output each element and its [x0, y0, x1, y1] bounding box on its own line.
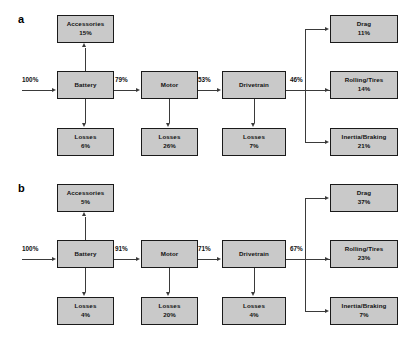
node-drivetrain-label: Drivetrain: [239, 250, 269, 259]
node-battery-losses-value: 6%: [81, 142, 90, 151]
arrowhead-drivetrain-to-losses: [251, 123, 255, 127]
node-accessories-label: Accessories: [67, 20, 105, 29]
node-drivetrain-losses-value: 4%: [249, 311, 258, 320]
panel-label-b: b: [18, 183, 25, 194]
connector-drivetrain-to-losses: [254, 268, 255, 292]
arrowhead-motor-to-losses: [166, 292, 170, 296]
node-battery-label: Battery: [74, 250, 96, 259]
node-motor-losses: Losses 20%: [141, 297, 198, 325]
node-motor-label: Motor: [161, 81, 179, 90]
arrowhead-drivetrain-to-losses: [251, 292, 255, 296]
connector-branch-to-drag: [305, 29, 326, 30]
connector-drivetrain-to-losses: [254, 99, 255, 123]
node-rolling-tires-label: Rolling/Tires: [345, 245, 384, 254]
connector-battery-to-motor: [114, 90, 136, 91]
node-rolling-tires-value: 23%: [358, 254, 371, 263]
flow-label-motor-to-drivetrain: 71%: [198, 246, 211, 252]
connector-branch-trunk: [305, 198, 306, 311]
connector-drivetrain-to-branch: [286, 259, 330, 260]
node-battery-losses-label: Losses: [75, 302, 97, 311]
connector-branch-trunk: [305, 29, 306, 142]
flow-label-battery-to-motor: 91%: [115, 246, 128, 252]
node-battery-losses: Losses 4%: [57, 297, 114, 325]
connector-battery-to-losses: [85, 268, 86, 292]
connector-motor-to-losses: [169, 99, 170, 123]
node-drag-label: Drag: [357, 189, 372, 198]
node-drivetrain: Drivetrain: [222, 240, 286, 268]
arrowhead-branch-to-drag: [325, 27, 329, 31]
arrowhead-branch-to-rolling: [325, 88, 329, 92]
node-accessories-value: 15%: [79, 29, 92, 38]
arrowhead-battery-to-motor: [136, 88, 140, 92]
node-motor-losses: Losses 26%: [141, 128, 198, 156]
node-drivetrain-label: Drivetrain: [239, 81, 269, 90]
node-motor: Motor: [141, 71, 198, 99]
node-battery-label: Battery: [74, 81, 96, 90]
node-drivetrain-losses-label: Losses: [243, 133, 265, 142]
arrowhead-motor-to-drivetrain: [217, 88, 221, 92]
flow-label-input: 100%: [22, 246, 38, 252]
flow-label-input: 100%: [22, 77, 38, 83]
flow-label-drivetrain-to-road: 46%: [290, 77, 303, 83]
panel-a: a Accessories 15% Battery Losses 6% Moto…: [0, 0, 405, 169]
connector-branch-to-inertia: [305, 142, 326, 143]
arrowhead-motor-to-losses: [166, 123, 170, 127]
node-motor-label: Motor: [161, 250, 179, 259]
connector-motor-to-losses: [169, 268, 170, 292]
node-motor: Motor: [141, 240, 198, 268]
node-accessories-value: 5%: [81, 198, 90, 207]
node-rolling-tires: Rolling/Tires 23%: [330, 240, 398, 268]
node-accessories-label: Accessories: [67, 189, 105, 198]
arrowhead-battery-to-accessories: [82, 212, 86, 216]
node-drag: Drag 11%: [330, 15, 398, 43]
connector-motor-to-drivetrain: [198, 90, 217, 91]
connector-branch-to-inertia: [305, 311, 326, 312]
node-rolling-tires-label: Rolling/Tires: [345, 76, 384, 85]
node-motor-losses-value: 20%: [163, 311, 176, 320]
node-rolling-tires: Rolling/Tires 14%: [330, 71, 398, 99]
panel-b: b Accessories 5% Battery Losses 4% Motor…: [0, 169, 405, 338]
node-inertia-braking: Inertia/Braking 7%: [330, 297, 398, 325]
arrowhead-branch-to-inertia: [325, 140, 329, 144]
node-accessories: Accessories 5%: [57, 184, 114, 212]
arrowhead-battery-to-losses: [82, 123, 86, 127]
arrowhead-motor-to-drivetrain: [217, 257, 221, 261]
node-inertia-braking-value: 21%: [358, 142, 371, 151]
node-drivetrain-losses: Losses 7%: [222, 128, 286, 156]
arrowhead-input-to-battery: [52, 257, 56, 261]
node-inertia-braking-value: 7%: [359, 311, 368, 320]
arrowhead-battery-to-motor: [136, 257, 140, 261]
flow-label-drivetrain-to-road: 67%: [290, 246, 303, 252]
node-drivetrain-losses-label: Losses: [243, 302, 265, 311]
node-drag-label: Drag: [357, 20, 372, 29]
connector-branch-to-drag: [305, 198, 326, 199]
node-drag: Drag 37%: [330, 184, 398, 212]
arrowhead-battery-to-accessories: [82, 43, 86, 47]
node-inertia-braking-label: Inertia/Braking: [342, 133, 387, 142]
connector-battery-to-losses: [85, 99, 86, 123]
node-battery: Battery: [57, 240, 114, 268]
node-rolling-tires-value: 14%: [358, 85, 371, 94]
connector-battery-to-accessories: [85, 48, 86, 71]
arrowhead-branch-to-inertia: [325, 309, 329, 313]
panel-label-a: a: [18, 14, 24, 25]
flow-label-battery-to-motor: 79%: [115, 77, 128, 83]
connector-input-to-battery: [22, 90, 53, 91]
node-battery-losses-value: 4%: [81, 311, 90, 320]
node-motor-losses-label: Losses: [159, 302, 181, 311]
connector-battery-to-accessories: [85, 217, 86, 240]
connector-drivetrain-to-branch: [286, 90, 330, 91]
node-battery: Battery: [57, 71, 114, 99]
node-motor-losses-label: Losses: [159, 133, 181, 142]
node-drivetrain-losses: Losses 4%: [222, 297, 286, 325]
connector-motor-to-drivetrain: [198, 259, 217, 260]
node-inertia-braking-label: Inertia/Braking: [342, 302, 387, 311]
node-motor-losses-value: 26%: [163, 142, 176, 151]
connector-battery-to-motor: [114, 259, 136, 260]
connector-input-to-battery: [22, 259, 53, 260]
flow-label-motor-to-drivetrain: 53%: [198, 77, 211, 83]
node-accessories: Accessories 15%: [57, 15, 114, 43]
arrowhead-branch-to-rolling: [325, 257, 329, 261]
node-battery-losses: Losses 6%: [57, 128, 114, 156]
node-inertia-braking: Inertia/Braking 21%: [330, 128, 398, 156]
